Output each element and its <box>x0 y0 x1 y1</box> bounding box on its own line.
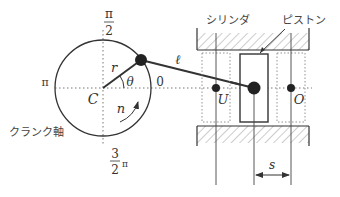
cylinder-label: シリンダ <box>206 13 250 27</box>
cylinder-wall-top <box>197 33 309 50</box>
angle-label-right: 0 <box>156 75 164 89</box>
bdc-point <box>212 84 220 92</box>
angle-label-bottom-pi: π <box>122 159 128 169</box>
crank-radius-label: r <box>111 60 118 75</box>
angle-label-top-num: π <box>105 7 113 21</box>
angle-label-top-den: 2 <box>105 24 113 38</box>
bdc-label: U <box>218 92 230 107</box>
rod-length-label: ℓ <box>175 52 181 67</box>
crank-arm <box>103 60 141 88</box>
cylinder-wall-bottom <box>197 126 309 143</box>
angle-label-bottom-num: 3 <box>111 147 119 161</box>
crank-pin <box>135 54 147 66</box>
piston-pin <box>248 82 261 95</box>
crank-center-label: C <box>88 91 99 107</box>
angle-label-left: π <box>41 76 48 89</box>
stroke-label: s <box>269 158 275 172</box>
crankshaft-label: クランク軸 <box>9 125 64 139</box>
theta-arc <box>120 76 124 88</box>
tdc-point <box>287 84 295 92</box>
rotation-speed-label: n <box>117 101 125 116</box>
tdc-label: O <box>294 92 305 107</box>
piston-label: ピストン <box>282 14 326 27</box>
angle-label-bottom-den: 2 <box>111 163 119 177</box>
crank-angle-label: θ <box>126 75 134 89</box>
crank-piston-diagram: π 2 π 0 3 2 π C r θ n ℓ U O s シリンダ ピストン … <box>0 0 340 197</box>
